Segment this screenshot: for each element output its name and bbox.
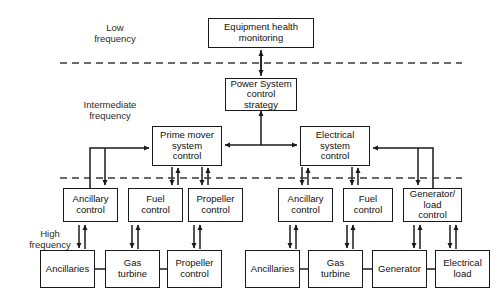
control-architecture-diagram: Low frequency Intermediate frequency Hig… (0, 0, 500, 304)
node-prime-mover-system-control[interactable]: Prime mover system control (152, 126, 222, 166)
node-pm-propeller-control[interactable]: Propeller control (188, 188, 243, 222)
node-electrical-system-control[interactable]: Electrical system control (300, 126, 370, 166)
node-es-generator[interactable]: Generator (372, 250, 427, 288)
node-pm-fuel-control[interactable]: Fuel control (128, 188, 183, 222)
node-es-generator-load-control[interactable]: Generator/ load control (403, 188, 462, 222)
frequency-label-high: High frequency (8, 228, 92, 251)
frequency-label-low: Low frequency (75, 22, 155, 45)
node-pm-ancillaries[interactable]: Ancillaries (40, 250, 95, 288)
node-es-fuel-control[interactable]: Fuel control (343, 188, 393, 222)
node-pm-propeller[interactable]: Propeller control (167, 250, 222, 288)
node-es-electrical-load[interactable]: Electrical load (435, 250, 490, 288)
node-equipment-health-monitoring[interactable]: Equipment health monitoring (208, 18, 314, 48)
frequency-label-intermediate: Intermediate frequency (60, 99, 160, 122)
node-es-ancillary-control[interactable]: Ancillary control (278, 188, 333, 222)
node-power-system-control-strategy[interactable]: Power System control strategy (225, 78, 297, 111)
node-es-ancillaries[interactable]: Ancillaries (245, 250, 300, 288)
node-es-gas-turbine[interactable]: Gas turbine (308, 250, 363, 288)
node-pm-gas-turbine[interactable]: Gas turbine (105, 250, 160, 288)
node-pm-ancillary-control[interactable]: Ancillary control (63, 188, 118, 222)
